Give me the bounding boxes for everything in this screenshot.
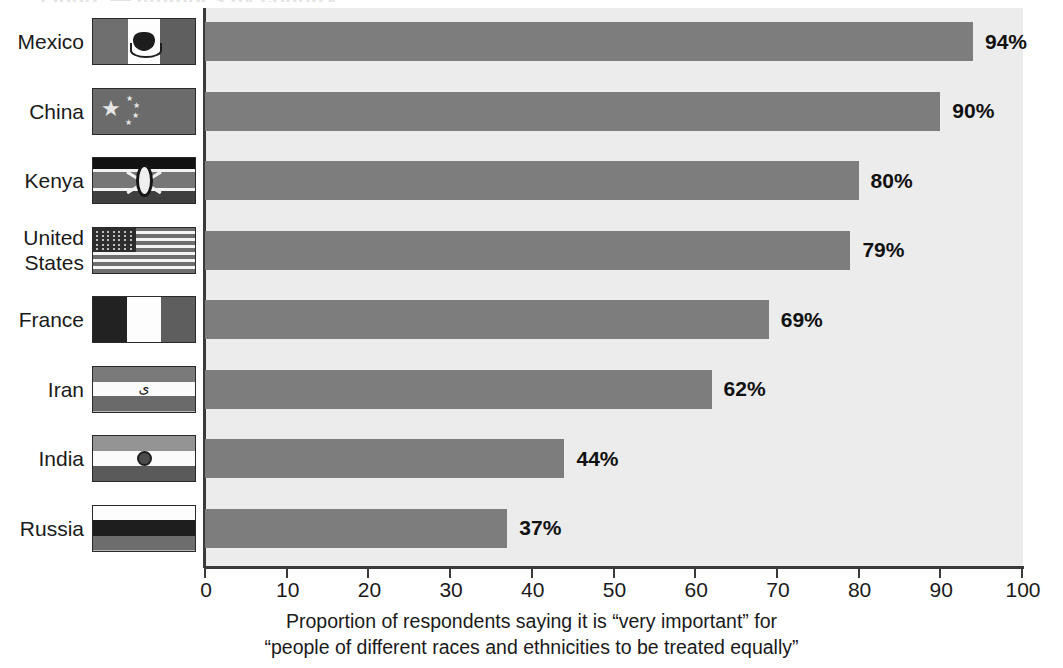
country-label: China bbox=[0, 78, 84, 145]
kenya-flag bbox=[92, 157, 196, 204]
bar-value-label: 79% bbox=[862, 231, 904, 270]
country-label: Kenya bbox=[0, 147, 84, 214]
cropped-title-remnant: Figure — attitudes by country bbox=[40, 0, 640, 2]
united-states-flag bbox=[92, 227, 196, 274]
x-axis-tick bbox=[858, 569, 860, 578]
x-axis-tick bbox=[1021, 569, 1023, 578]
x-axis-tick bbox=[939, 569, 941, 578]
chart-row: Russia37% bbox=[0, 495, 1063, 562]
france-flag bbox=[92, 296, 196, 343]
chart-row: Iranی62% bbox=[0, 356, 1063, 423]
iran-flag: ی bbox=[92, 366, 196, 413]
chart-row: China★★★★★90% bbox=[0, 78, 1063, 145]
x-axis-tick bbox=[286, 569, 288, 578]
caption-line-2: “people of different races and ethniciti… bbox=[0, 634, 1063, 660]
bar-value-label: 80% bbox=[871, 161, 913, 200]
bar-value-label: 94% bbox=[985, 22, 1027, 61]
chart-row: Mexico94% bbox=[0, 8, 1063, 75]
bar-value-label: 69% bbox=[781, 300, 823, 339]
country-label: India bbox=[0, 425, 84, 492]
bar bbox=[205, 370, 712, 409]
bar bbox=[205, 509, 507, 548]
x-axis-tick bbox=[613, 569, 615, 578]
country-label: United States bbox=[0, 217, 84, 284]
chart-row: Kenya80% bbox=[0, 147, 1063, 214]
bar-value-label: 44% bbox=[576, 439, 618, 478]
country-label: Russia bbox=[0, 495, 84, 562]
x-axis-tick bbox=[776, 569, 778, 578]
x-axis-tick-label: 0 bbox=[176, 578, 236, 602]
x-axis-tick bbox=[531, 569, 533, 578]
x-axis-tick-label: 40 bbox=[503, 578, 563, 602]
x-axis-tick bbox=[694, 569, 696, 578]
bar bbox=[205, 439, 564, 478]
x-axis-tick-label: 20 bbox=[339, 578, 399, 602]
bar-value-label: 90% bbox=[952, 92, 994, 131]
chart-row: India44% bbox=[0, 425, 1063, 492]
bar bbox=[205, 161, 859, 200]
x-axis-tick-label: 50 bbox=[585, 578, 645, 602]
x-axis-tick bbox=[204, 569, 206, 578]
bar bbox=[205, 92, 940, 131]
china-flag: ★★★★★ bbox=[92, 88, 196, 135]
country-label: Mexico bbox=[0, 8, 84, 75]
x-axis-tick-label: 30 bbox=[421, 578, 481, 602]
chart-row: France69% bbox=[0, 286, 1063, 353]
country-label: Iran bbox=[0, 356, 84, 423]
russia-flag bbox=[92, 505, 196, 552]
x-axis-tick-label: 60 bbox=[666, 578, 726, 602]
country-label: France bbox=[0, 286, 84, 353]
india-flag bbox=[92, 435, 196, 482]
bar bbox=[205, 231, 850, 270]
axis-caption: Proportion of respondents saying it is “… bbox=[0, 608, 1063, 660]
bar bbox=[205, 22, 973, 61]
bar-chart: Figure — attitudes by country Mexico94%C… bbox=[0, 0, 1063, 668]
x-axis-tick-label: 70 bbox=[748, 578, 808, 602]
chart-row: United States79% bbox=[0, 217, 1063, 284]
x-axis-tick-label: 80 bbox=[830, 578, 890, 602]
bar bbox=[205, 300, 769, 339]
mexico-flag bbox=[92, 18, 196, 65]
x-axis-tick bbox=[449, 569, 451, 578]
x-axis-tick-label: 10 bbox=[258, 578, 318, 602]
bar-value-label: 37% bbox=[519, 509, 561, 548]
x-axis-tick bbox=[367, 569, 369, 578]
x-axis-tick-label: 90 bbox=[911, 578, 971, 602]
bar-value-label: 62% bbox=[724, 370, 766, 409]
caption-line-1: Proportion of respondents saying it is “… bbox=[0, 608, 1063, 634]
x-axis-tick-label: 100 bbox=[993, 578, 1053, 602]
